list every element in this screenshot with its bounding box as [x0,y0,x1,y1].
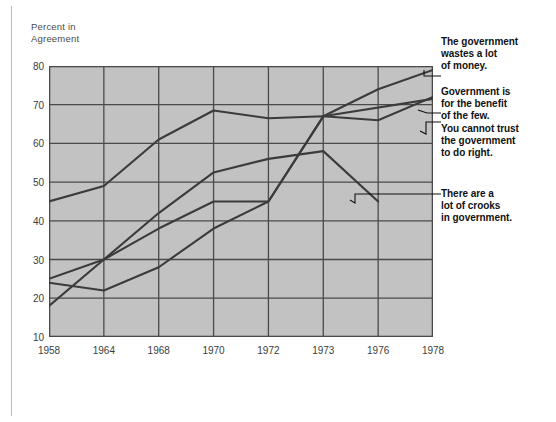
annotation-crooks: There are a lot of crooks in government. [441,188,554,223]
annotation-benefit: Government is for the benefit of the few… [441,86,554,121]
y-axis-tick-labels: 1020304050607080 [14,66,44,337]
x-tick-1968: 1968 [148,345,170,356]
series-annotations: The government wastes a lot of money.Gov… [441,0,556,422]
x-tick-1964: 1964 [93,345,115,356]
y-tick-10: 10 [18,331,44,342]
chart-page: Percent in Agreement 1020304050607080 19… [0,0,556,422]
y-axis-title: Percent in Agreement [31,21,79,44]
x-tick-1972: 1972 [257,345,279,356]
annotation-wastes: The government wastes a lot of money. [441,36,554,71]
x-tick-1958: 1958 [38,345,60,356]
series-line-2 [49,99,433,291]
y-tick-30: 30 [18,254,44,265]
plot-lines-svg [49,66,433,337]
x-tick-1973: 1973 [312,345,334,356]
x-tick-1976: 1976 [367,345,389,356]
y-tick-40: 40 [18,215,44,226]
y-tick-80: 80 [18,61,44,72]
y-tick-50: 50 [18,177,44,188]
y-tick-60: 60 [18,138,44,149]
y-tick-20: 20 [18,293,44,304]
series-line-1 [49,70,433,279]
series-line-0 [49,97,433,201]
plot-area [49,66,433,337]
annotation-trust: You cannot trust the government to do ri… [441,123,554,158]
x-tick-1970: 1970 [202,345,224,356]
y-tick-70: 70 [18,99,44,110]
